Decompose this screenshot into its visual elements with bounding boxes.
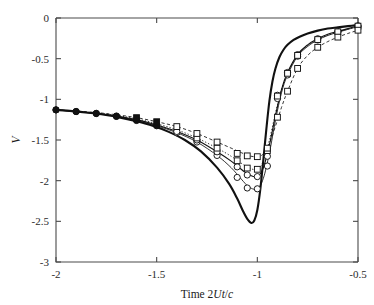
marker-square <box>214 139 220 145</box>
marker-square <box>295 66 301 72</box>
marker-square <box>315 44 321 50</box>
series-line-curve-circle-upper-solid <box>56 26 358 177</box>
marker-square <box>285 88 291 94</box>
marker-square <box>244 153 250 159</box>
marker-circle <box>93 110 99 116</box>
marker-circle <box>244 172 250 178</box>
y-tick-label: -2 <box>40 175 49 187</box>
curve-layer <box>56 25 358 223</box>
marker-circle <box>264 163 270 169</box>
x-tick-label: -1.5 <box>148 268 166 280</box>
y-tick-label: -3 <box>40 256 50 268</box>
marker-square <box>234 158 240 164</box>
marker-circle <box>113 113 119 119</box>
marker-square <box>335 34 341 40</box>
figure-container: 0-0.5-1-1.5-2-2.5-3-2-1.5-1-0.5Time 2Ut/… <box>0 0 374 305</box>
x-axis-title: Time 2Ut/c <box>181 288 233 300</box>
marker-circle <box>244 185 250 191</box>
marker-layer <box>53 23 361 192</box>
marker-square <box>174 124 180 130</box>
marker-circle <box>53 107 59 113</box>
marker-circle <box>264 153 270 159</box>
marker-square <box>285 70 291 76</box>
marker-circle <box>254 174 260 180</box>
y-tick-label: 0 <box>44 12 50 24</box>
x-tick-label: -1 <box>253 268 262 280</box>
marker-square <box>244 165 250 171</box>
label-layer: 0-0.5-1-1.5-2-2.5-3-2-1.5-1-0.5Time 2Ut/… <box>10 12 367 300</box>
y-tick-label: -0.5 <box>32 53 50 65</box>
series-line-reference-solid-thick <box>56 25 358 223</box>
y-tick-label: -1.5 <box>32 134 50 146</box>
marker-circle <box>254 186 260 192</box>
marker-square <box>214 145 220 151</box>
marker-square <box>134 115 140 121</box>
marker-square <box>355 27 361 33</box>
marker-square <box>254 166 260 172</box>
marker-square <box>275 93 281 99</box>
axis-frame <box>56 18 358 262</box>
x-tick-label: -2 <box>51 268 60 280</box>
marker-square <box>234 151 240 157</box>
marker-square <box>194 131 200 137</box>
y-tick-label: -1 <box>40 93 49 105</box>
line-chart: 0-0.5-1-1.5-2-2.5-3-2-1.5-1-0.5Time 2Ut/… <box>0 0 374 305</box>
marker-square <box>275 114 281 120</box>
marker-square <box>315 37 321 43</box>
series-line-curve-square-upper-dashed <box>56 30 358 157</box>
marker-circle <box>234 164 240 170</box>
y-axis-title: V <box>10 135 22 144</box>
marker-circle <box>234 174 240 180</box>
marker-square <box>265 145 271 151</box>
marker-square <box>254 154 260 160</box>
marker-square <box>154 119 160 125</box>
y-tick-label: -2.5 <box>32 215 50 227</box>
axis-layer <box>56 18 358 262</box>
x-tick-label: -0.5 <box>349 268 367 280</box>
marker-circle <box>73 108 79 114</box>
marker-square <box>295 53 301 59</box>
